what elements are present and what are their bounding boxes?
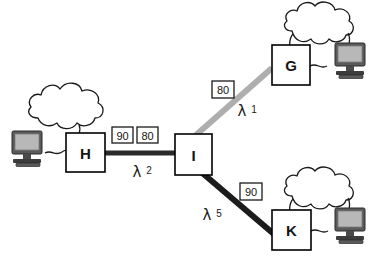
- metric-label-hi-90: 90: [116, 130, 128, 142]
- lambda-label-link-ik: λ 5: [203, 206, 223, 224]
- node-G[interactable]: G: [272, 45, 310, 85]
- node-K-label: K: [286, 222, 297, 239]
- workstation-g-icon: [335, 43, 365, 79]
- cloud-g: [285, 2, 354, 44]
- lambda-label-link-hi: λ 2: [133, 163, 153, 181]
- network-topology-diagram: H I G K 90 80 80 90: [0, 0, 377, 266]
- workstation-h-icon: [12, 131, 42, 167]
- lambda-index-2: 2: [146, 165, 152, 176]
- lambda-index-5: 5: [216, 208, 222, 219]
- cloud-h: [29, 83, 103, 128]
- node-I-label: I: [191, 147, 195, 164]
- lambda-symbol-5: λ: [203, 206, 212, 224]
- workstation-k-icon: [335, 208, 365, 244]
- node-G-label: G: [285, 57, 297, 74]
- link-I-K: [200, 171, 275, 235]
- metric-label-hi-80: 80: [141, 130, 153, 142]
- cloud-k: [285, 167, 354, 209]
- metric-box-ig-80: 80: [212, 81, 234, 98]
- link-I-G: [196, 68, 272, 135]
- lambda-symbol-2: λ: [133, 163, 142, 181]
- lambda-symbol-1: λ: [238, 102, 247, 120]
- node-H[interactable]: H: [66, 133, 105, 172]
- metric-box-hi-90: 90: [112, 127, 133, 143]
- node-I[interactable]: I: [175, 134, 212, 175]
- diagram-canvas: H I G K 90 80 80 90: [0, 0, 377, 266]
- metric-box-hi-80: 80: [137, 127, 158, 143]
- node-H-label: H: [80, 145, 91, 162]
- metric-box-ik-90: 90: [240, 183, 262, 200]
- node-K[interactable]: K: [272, 210, 311, 250]
- lambda-index-1: 1: [251, 104, 257, 115]
- metric-label-ig-80: 80: [217, 84, 229, 96]
- metric-label-ik-90: 90: [245, 186, 257, 198]
- lambda-label-link-ig: λ 1: [238, 102, 258, 120]
